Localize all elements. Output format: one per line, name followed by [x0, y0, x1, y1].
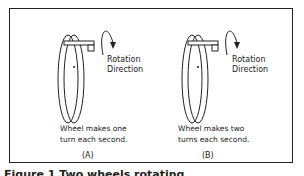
- panel-label: (B): [202, 151, 214, 160]
- direction-label: Direction: [107, 65, 143, 75]
- arrow-icon: [110, 42, 116, 49]
- direction-label: Direction: [232, 65, 268, 75]
- description-line-1: Wheel makes one: [60, 123, 127, 134]
- description-line-2: turn each second.: [60, 134, 127, 145]
- arrow-icon: [234, 42, 240, 49]
- figure-frame: Rotation Direction Wheel makes one turn …: [9, 8, 293, 163]
- rotation-label: Rotation: [107, 55, 143, 65]
- panel-a: Rotation Direction Wheel makes one turn …: [10, 9, 150, 161]
- panel-label: (A): [82, 151, 94, 160]
- rotation-label: Rotation: [232, 55, 268, 65]
- panel-b: Rotation Direction Wheel makes two turns…: [152, 9, 292, 161]
- description-line-2: turns each second.: [178, 134, 249, 145]
- description-line-1: Wheel makes two: [178, 123, 249, 134]
- figure-caption: Figure 1 Two wheels rotating: [4, 168, 185, 176]
